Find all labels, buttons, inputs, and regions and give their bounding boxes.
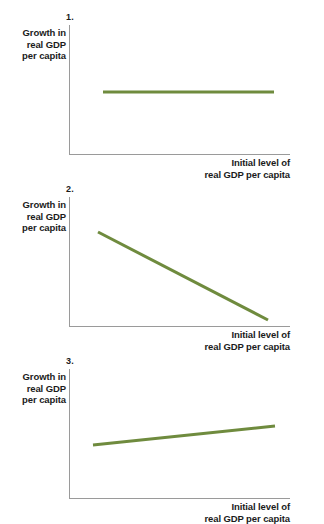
y-axis-label-line-1: Growth in bbox=[4, 199, 66, 211]
x-axis-label-line-1: Initial level of bbox=[140, 329, 290, 341]
y-axis-label-line-3: per capita bbox=[4, 50, 66, 62]
panel-3-plot-area bbox=[69, 369, 290, 498]
panel-2-y-axis-label: Growth in real GDP per capita bbox=[4, 199, 66, 234]
y-axis-label-line-1: Growth in bbox=[4, 371, 66, 383]
panel-3-number: 3. bbox=[34, 356, 74, 366]
y-axis-label-line-3: per capita bbox=[4, 222, 66, 234]
panel-2: 2. Growth in real GDP per capita Initial… bbox=[0, 172, 324, 342]
panel-3-y-axis-label: Growth in real GDP per capita bbox=[4, 371, 66, 406]
panel-1-x-axis bbox=[69, 154, 290, 155]
x-axis-label-line-2: real GDP per capita bbox=[140, 513, 290, 524]
panel-1: 1. Growth in real GDP per capita Initial… bbox=[0, 0, 324, 170]
panel-3-trend-line bbox=[93, 426, 275, 445]
panel-1-y-axis-label: Growth in real GDP per capita bbox=[4, 27, 66, 62]
panel-3: 3. Growth in real GDP per capita Initial… bbox=[0, 344, 324, 517]
panel-3-x-axis bbox=[69, 498, 290, 499]
y-axis-label-line-2: real GDP bbox=[4, 39, 66, 51]
x-axis-label-line-1: Initial level of bbox=[140, 501, 290, 513]
y-axis-label-line-1: Growth in bbox=[4, 27, 66, 39]
y-axis-label-line-2: real GDP bbox=[4, 211, 66, 223]
y-axis-label-line-3: per capita bbox=[4, 394, 66, 406]
panel-2-x-axis bbox=[69, 326, 290, 327]
panel-3-x-axis-label: Initial level of real GDP per capita bbox=[140, 501, 290, 524]
panel-2-trend-line bbox=[98, 232, 268, 320]
panel-2-number: 2. bbox=[34, 184, 74, 194]
panel-2-plot-area bbox=[69, 197, 290, 326]
y-axis-label-line-2: real GDP bbox=[4, 383, 66, 395]
x-axis-label-line-1: Initial level of bbox=[140, 157, 290, 169]
panel-1-number: 1. bbox=[34, 12, 74, 22]
panel-1-plot-area bbox=[69, 25, 290, 154]
